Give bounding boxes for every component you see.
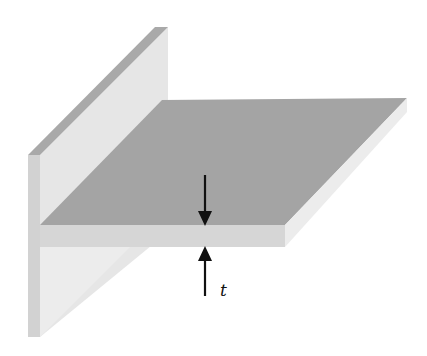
- plate-front-edge: [40, 225, 285, 247]
- thickness-label: t: [220, 280, 227, 300]
- wall-lower-face: [40, 247, 130, 337]
- plate-wall-diagram: t: [0, 0, 427, 356]
- wall-front-edge: [28, 155, 40, 337]
- arrow-up-head-icon: [198, 246, 212, 261]
